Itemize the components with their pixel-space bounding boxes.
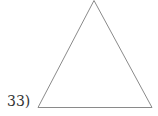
triangle bbox=[38, 1, 152, 108]
triangle-figure bbox=[0, 0, 158, 116]
